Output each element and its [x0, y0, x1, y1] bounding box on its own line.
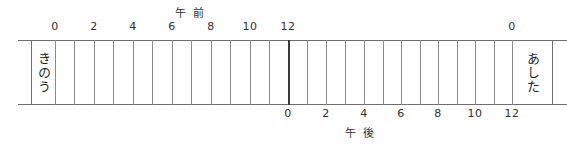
am-tick-24: 0 [508, 20, 516, 33]
hour-grid-line [230, 40, 231, 105]
pm-tick-18: 6 [397, 107, 405, 120]
hour-grid-line [94, 40, 95, 105]
hour-grid-line [438, 40, 439, 105]
hour-grid-line [152, 40, 153, 105]
pm-tick-14: 2 [322, 107, 330, 120]
yesterday-label: きのう [36, 52, 51, 94]
hour-grid-line [250, 40, 251, 105]
hour-grid-line [191, 40, 192, 105]
hour-grid-line [326, 40, 327, 105]
pm-caption: 午後 [345, 124, 374, 140]
am-tick-8: 8 [207, 20, 215, 33]
hour-grid-line [401, 40, 402, 105]
hour-grid-line [383, 40, 384, 105]
hour-grid-line [113, 40, 114, 105]
tomorrow-label: あした [525, 52, 540, 94]
am-caption-char-2: 前 [193, 4, 204, 20]
hour-grid-line [211, 40, 212, 105]
am-tick-0: 0 [51, 20, 59, 33]
hour-grid-line [269, 40, 270, 105]
timeline-diagram: 0246810120 024681012 午前 午後 きのう あした [0, 0, 567, 145]
pm-tick-16: 4 [360, 107, 368, 120]
yesterday-cell: きのう [32, 41, 55, 104]
am-caption-char-1: 午 [175, 4, 186, 20]
hour-grid-line [133, 40, 134, 105]
am-caption: 午前 [175, 4, 204, 20]
am-tick-2: 2 [90, 20, 98, 33]
pm-caption-char-1: 午 [345, 124, 356, 140]
am-tick-10: 10 [243, 20, 258, 33]
pm-tick-20: 8 [434, 107, 442, 120]
hour-grid-line [172, 40, 173, 105]
tomorrow-cell: あした [513, 41, 552, 104]
pm-tick-24: 12 [505, 107, 520, 120]
pm-tick-22: 10 [468, 107, 483, 120]
hour-grid-line [494, 40, 495, 105]
hour-grid-line [457, 40, 458, 105]
hour-grid-line [55, 40, 56, 105]
noon-divider-line [288, 40, 290, 105]
am-tick-12: 12 [281, 20, 296, 33]
hour-grid-line [345, 40, 346, 105]
hour-grid-line [364, 40, 365, 105]
am-tick-4: 4 [129, 20, 137, 33]
hour-grid-line [74, 40, 75, 105]
pm-caption-char-2: 後 [363, 124, 374, 140]
hour-grid-line [307, 40, 308, 105]
am-tick-6: 6 [168, 20, 176, 33]
hour-grid-line [552, 40, 553, 105]
pm-tick-12: 0 [284, 107, 292, 120]
hour-grid-line [475, 40, 476, 105]
hour-grid-line [420, 40, 421, 105]
hour-grid [0, 40, 567, 105]
